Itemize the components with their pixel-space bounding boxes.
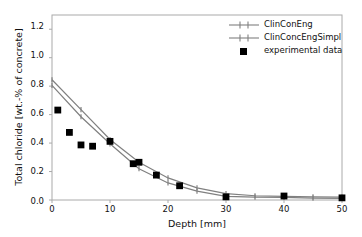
legend-label: experimental data	[264, 45, 342, 55]
xtick-label: 10	[97, 204, 123, 214]
xtick-label: 20	[155, 204, 181, 214]
y-axis-label: Total chloride [wt.-% of concrete]	[13, 12, 24, 202]
axis-ticks	[49, 29, 342, 203]
data-series-group	[52, 77, 345, 201]
line-plus-marker-icon	[228, 33, 260, 43]
xtick-label: 30	[213, 204, 239, 214]
series-2	[54, 107, 345, 202]
legend-label: ClinConcEngSimpl	[264, 32, 341, 42]
filled-square-marker-icon	[228, 46, 260, 56]
xtick-label: 50	[329, 204, 355, 214]
series-1	[52, 83, 342, 201]
xtick-label: 0	[39, 204, 65, 214]
x-axis-label: Depth [mm]	[52, 218, 342, 229]
line-plus-marker-icon	[228, 20, 260, 30]
series-0	[52, 77, 342, 200]
xtick-label: 40	[271, 204, 297, 214]
legend-label: ClinConEng	[264, 19, 313, 29]
plot-frame	[52, 15, 342, 200]
chart-figure: 0.0 0.2 0.4 0.6 0.8 1.0 1.2 0 10 20 30 4…	[0, 0, 362, 237]
